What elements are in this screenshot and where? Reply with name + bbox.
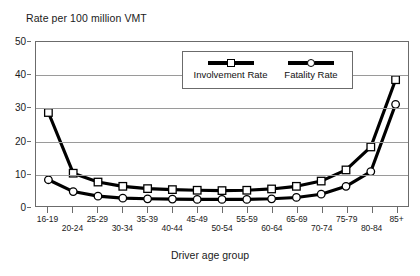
legend-item-involvement-rate: Involvement Rate xyxy=(189,56,272,80)
square-marker-icon xyxy=(227,59,235,67)
x-tick-mark xyxy=(97,207,98,213)
data-point-marker xyxy=(342,183,350,191)
gridline xyxy=(36,142,408,143)
data-point-marker xyxy=(193,186,201,194)
data-point-marker xyxy=(243,196,251,204)
x-tick-mark xyxy=(372,207,373,213)
data-point-marker xyxy=(367,143,375,151)
x-tick-label: 80-84 xyxy=(361,223,382,233)
data-point-marker xyxy=(69,169,77,177)
chart-figure: Rate per 100 million VMT 01020304050 16-… xyxy=(0,0,420,276)
data-point-marker xyxy=(293,194,301,202)
x-tick-mark xyxy=(72,207,73,213)
data-point-marker xyxy=(144,195,152,203)
x-tick-label: 65-69 xyxy=(286,214,307,224)
x-tick-label: 16-19 xyxy=(37,214,58,224)
y-tick-label: 30 xyxy=(15,102,26,113)
data-point-marker xyxy=(45,109,53,117)
x-tick-label: 25-29 xyxy=(87,214,108,224)
x-tick-mark xyxy=(297,207,298,213)
legend-label: Fatality Rate xyxy=(273,69,349,80)
x-tick-label: 35-39 xyxy=(137,214,158,224)
y-tick-label: 10 xyxy=(15,168,26,179)
legend-item-fatality-rate: Fatality Rate xyxy=(273,56,349,80)
y-tick-mark xyxy=(27,141,31,142)
gridline xyxy=(36,108,408,109)
y-tick-mark xyxy=(27,41,31,42)
x-tick-label: 40-44 xyxy=(162,223,183,233)
data-point-marker xyxy=(317,190,325,198)
x-axis-ticks xyxy=(35,207,409,214)
data-point-marker xyxy=(69,188,77,196)
data-point-marker xyxy=(119,194,127,202)
data-point-marker xyxy=(94,192,102,200)
x-tick-mark xyxy=(347,207,348,213)
circle-marker-icon xyxy=(307,59,315,67)
data-point-marker xyxy=(45,176,53,184)
y-tick-mark xyxy=(27,74,31,75)
x-tick-mark xyxy=(197,207,198,213)
chart-legend: Involvement Rate Fatality Rate xyxy=(182,51,353,89)
x-tick-label: 45-49 xyxy=(186,214,207,224)
y-tick-mark xyxy=(27,174,31,175)
data-point-marker xyxy=(268,195,276,203)
x-tick-mark xyxy=(272,207,273,213)
data-point-marker xyxy=(193,196,201,204)
x-axis-labels: 16-1920-2425-2930-3435-3940-4445-4950-54… xyxy=(0,214,420,240)
data-point-marker xyxy=(94,178,102,186)
legend-label: Involvement Rate xyxy=(189,69,272,80)
x-tick-mark xyxy=(122,207,123,213)
data-point-marker xyxy=(392,76,400,84)
x-tick-label: 70-74 xyxy=(311,223,332,233)
x-tick-label: 50-54 xyxy=(211,223,232,233)
y-axis: 01020304050 xyxy=(0,41,31,207)
data-point-marker xyxy=(392,101,400,109)
gridline xyxy=(36,175,408,176)
x-tick-mark xyxy=(247,207,248,213)
x-tick-mark xyxy=(47,207,48,213)
y-tick-label: 40 xyxy=(15,69,26,80)
data-point-marker xyxy=(119,183,127,191)
chart-title: Rate per 100 million VMT xyxy=(26,12,147,24)
x-tick-label: 85+ xyxy=(389,214,403,224)
y-tick-mark xyxy=(27,207,31,208)
x-tick-label: 20-24 xyxy=(62,223,83,233)
y-tick-label: 0 xyxy=(20,202,26,213)
data-point-marker xyxy=(293,183,301,191)
legend-swatch-square xyxy=(208,57,254,68)
data-point-marker xyxy=(218,196,226,204)
y-tick-label: 50 xyxy=(15,36,26,47)
x-tick-mark xyxy=(172,207,173,213)
data-point-marker xyxy=(218,187,226,195)
x-axis-title: Driver age group xyxy=(0,249,420,261)
legend-swatch-circle xyxy=(288,57,334,68)
data-point-marker xyxy=(169,186,177,194)
x-tick-mark xyxy=(322,207,323,213)
x-tick-label: 75-79 xyxy=(336,214,357,224)
x-tick-mark xyxy=(222,207,223,213)
data-point-marker xyxy=(169,195,177,203)
data-point-marker xyxy=(144,185,152,193)
y-tick-label: 20 xyxy=(15,135,26,146)
data-point-marker xyxy=(243,186,251,194)
data-point-marker xyxy=(317,177,325,185)
x-tick-label: 60-64 xyxy=(261,223,282,233)
x-tick-label: 30-34 xyxy=(112,223,133,233)
x-tick-mark xyxy=(397,207,398,213)
x-tick-label: 55-59 xyxy=(236,214,257,224)
y-tick-mark xyxy=(27,107,31,108)
data-point-marker xyxy=(342,166,350,174)
data-point-marker xyxy=(268,185,276,193)
x-tick-mark xyxy=(147,207,148,213)
